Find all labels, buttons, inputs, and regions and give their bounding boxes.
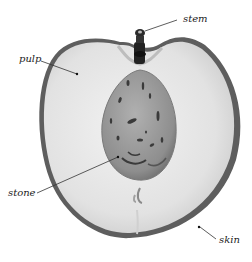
fruit-stem	[134, 29, 146, 64]
fruit-diagram: stem pulp stone skin	[0, 0, 252, 262]
label-stem: stem	[183, 13, 208, 24]
fruit-cross-section-illustration	[0, 0, 252, 262]
label-skin: skin	[219, 234, 240, 245]
label-pulp: pulp	[19, 53, 41, 64]
label-stone: stone	[8, 187, 36, 198]
